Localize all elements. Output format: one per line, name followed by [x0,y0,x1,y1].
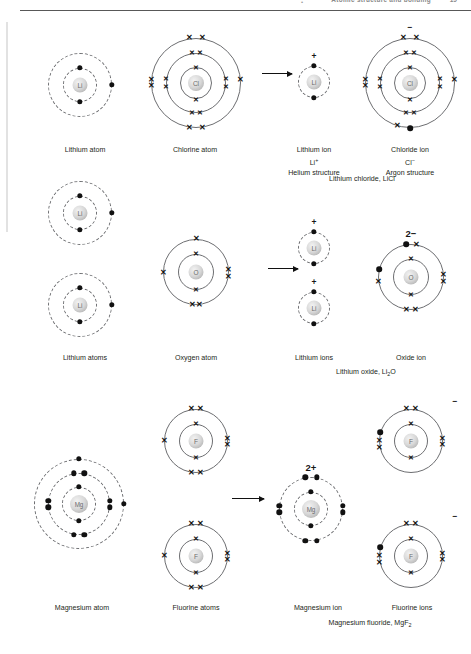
nucleus-f: F [404,549,419,564]
electron-cross: ✕ [377,83,383,90]
nucleus-cl: Cl [188,75,204,91]
ion-charge-label: 2− [406,228,417,239]
caption-chloride-ion: Chloride ion Cl− Argon structure [386,146,435,178]
ion-charge-label: + [312,51,317,61]
electron-cross: ✕ [199,35,206,43]
chloride-ion-diagram: Cl✕✕✕✕✕✕✕✕✕✕✕✕✕✕✕✕− [350,23,470,143]
electron-cross: ✕ [408,569,414,576]
electron-cross: ✕ [225,273,232,281]
electron-cross: ✕ [408,454,414,461]
electron-cross: ✕ [197,109,203,116]
ion-charge-label: + [312,217,317,227]
electron-cross: ✕ [440,278,447,286]
electron-cross: ✕ [408,255,414,262]
electron-dot [376,266,382,272]
lithium-ion-diagram: Li+ [284,52,344,112]
electron-cross: ✕ [375,278,382,286]
electron-dot [407,125,413,131]
electron-cross: ✕ [199,124,206,132]
electron-cross: ✕ [451,76,458,84]
electron-cross: ✕ [376,552,383,560]
electron-cross: ✕ [439,442,446,450]
electron-cross: ✕ [224,442,231,450]
lithium-oxide-pre: Lithium oxide, Li [336,368,387,376]
electron-dot [311,95,316,100]
electron-dot [311,321,316,326]
electron-cross: ✕ [223,83,229,90]
electron-cross: ✕ [197,405,204,413]
electron-cross: ✕ [188,584,195,592]
lithium-oxide-post: O [390,368,396,376]
header-rule [20,10,471,11]
electron-cross: ✕ [223,75,229,82]
fluoride-ion-diagram-2: F✕✕✕✕✕✕✕✕− [365,510,457,602]
electron-cross: ✕ [408,291,414,298]
electron-cross: ✕ [407,64,413,71]
electron-dot [314,538,319,543]
electron-cross: ✕ [413,35,420,43]
electron-cross: ✕ [193,235,200,243]
electron-cross: ✕ [439,557,446,565]
electron-cross: ✕ [408,420,414,427]
running-head-bullet: • [301,0,303,5]
electron-cross: ✕ [189,301,196,309]
page-number: 19 [450,0,457,3]
fluorine-atom-diagram-1: F✕✕✕✕✕✕✕✕✕ [150,395,242,487]
lithium-ion-diagram-3: Li+ [284,278,344,338]
caption-lithium-chloride: Lithium chloride, LiCl [329,175,395,185]
caption-lithium-ion-formula: Li+ [288,156,340,169]
chlorine-atom-diagram: Cl✕✕✕✕✕✕✕✕✕✕✕✕✕✕✕✕✕ [136,23,256,143]
electron-dot [109,82,114,87]
electron-cross: ✕ [148,76,155,84]
electron-cross: ✕ [237,76,244,84]
nucleus-f: F [404,434,419,449]
electron-cross: ✕ [161,552,168,560]
electron-cross: ✕ [163,75,169,82]
magnesium-ion-diagram: Mg2+ [265,463,357,555]
electron-cross: ✕ [193,250,199,257]
caption-fluorine-atoms: Fluorine atoms [173,604,220,614]
ion-charge-label: + [312,277,317,287]
electron-cross: ✕ [188,520,195,528]
chloride-ion-charge-sup: − [412,157,415,163]
electron-cross: ✕ [186,124,193,132]
nucleus-o: O [404,270,419,285]
electron-dot [121,501,126,506]
electron-cross: ✕ [193,454,199,461]
lithium-ion-diagram-2: Li+ [284,218,344,278]
caption-magnesium-atom: Magnesium atom [55,604,109,614]
caption-lithium-ion: Lithium ion Li+ Helium structure [288,146,340,178]
nucleus-li: Li [73,298,88,313]
magnesium-fluoride-sub: 2 [409,622,412,628]
nucleus-f: F [189,434,204,449]
electron-cross: ✕ [193,420,199,427]
caption-lithium-ion-name: Lithium ion [288,146,340,156]
nucleus-mg: Mg [70,495,88,513]
running-head: • Atomic structure and bonding 19 [0,0,471,10]
caption-magnesium-fluoride: Magnesium fluoride, MgF2 [328,619,411,631]
electron-cross: ✕ [437,83,443,90]
electron-cross: ✕ [189,50,195,57]
nucleus-li: Li [307,241,322,256]
electron-cross: ✕ [413,241,420,249]
caption-oxygen-atom: Oxygen atom [175,354,217,364]
electron-cross: ✕ [437,75,443,82]
electron-cross: ✕ [193,64,199,71]
ion-charge-label: − [453,511,458,521]
electron-cross: ✕ [188,469,195,477]
electron-cross: ✕ [411,50,417,57]
caption-chlorine-atom: Chlorine atom [173,146,217,156]
reaction-arrow-3 [232,498,264,499]
oxide-ion-diagram: O✕✕✕✕✕✕✕✕2− [363,229,459,325]
electron-cross: ✕ [403,306,410,314]
fluorine-atom-diagram-2: F✕✕✕✕✕✕✕✕✕ [150,510,242,602]
electron-cross: ✕ [186,35,193,43]
electron-cross: ✕ [197,584,204,592]
caption-chloride-ion-name: Chloride ion [386,146,435,156]
electron-cross: ✕ [403,109,409,116]
electron-cross: ✕ [400,35,407,43]
electron-cross: ✕ [197,520,204,528]
nucleus-li: Li [73,78,88,93]
magnesium-atom-diagram: Mg [20,445,138,563]
electron-cross: ✕ [403,50,409,57]
